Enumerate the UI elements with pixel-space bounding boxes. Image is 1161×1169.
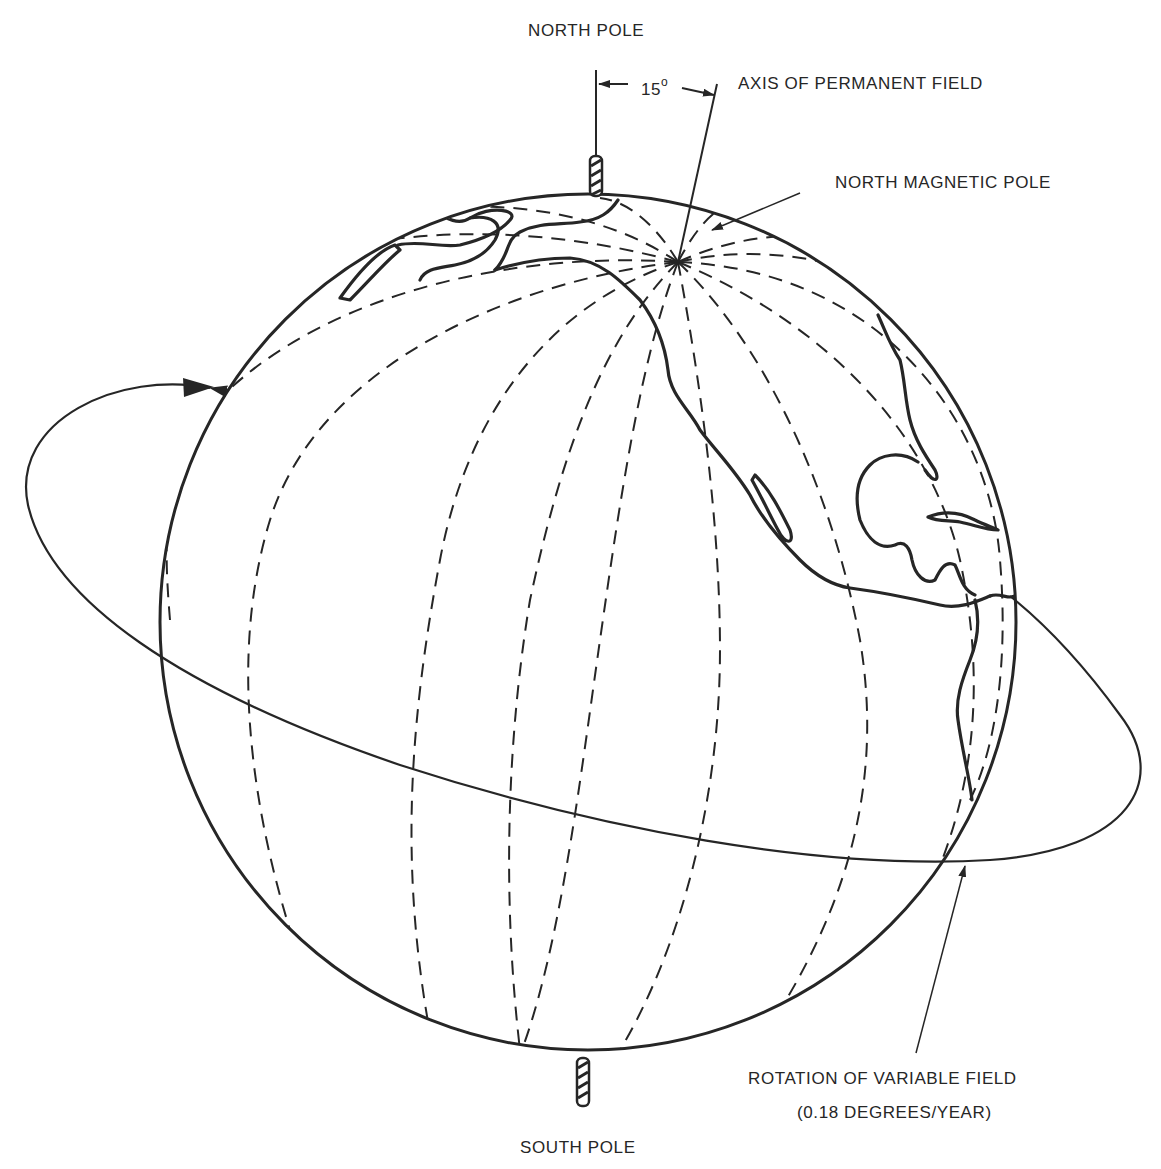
orbit-arrow-icon — [183, 378, 214, 397]
angle-unit: o — [661, 75, 668, 89]
north-pole-rod — [590, 70, 602, 196]
globe-outline — [160, 194, 1016, 1050]
angle-value: 15 — [641, 80, 661, 99]
permanent-field-axis — [678, 84, 717, 262]
south-pole-rod — [577, 1058, 589, 1106]
angle-arrow-right-icon — [682, 88, 714, 95]
rotation-rate-label: (0.18 DEGREES/YEAR) — [797, 1104, 992, 1121]
magnetic-pole-leader-icon — [712, 193, 800, 230]
north-magnetic-pole-label: NORTH MAGNETIC POLE — [835, 174, 1051, 191]
angle-label: 15o — [641, 78, 668, 98]
rotation-variable-field-label: ROTATION OF VARIABLE FIELD — [748, 1070, 1017, 1087]
continent-outlines — [340, 200, 1015, 800]
globe-diagram: NORTH POLE 15o AXIS OF PERMANENT FIELD N… — [0, 0, 1161, 1169]
permanent-field-axis-label: AXIS OF PERMANENT FIELD — [738, 75, 983, 92]
magnetic-meridians — [167, 198, 1003, 1055]
rotation-leader-icon — [916, 866, 965, 1053]
south-pole-label: SOUTH POLE — [520, 1139, 636, 1156]
north-pole-label: NORTH POLE — [528, 22, 644, 39]
